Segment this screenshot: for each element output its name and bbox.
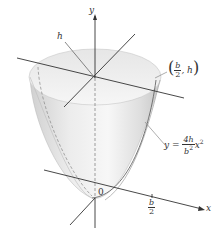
x-axis-arrow (198, 206, 205, 211)
x-axis (44, 170, 202, 209)
equation-label: y = 4hb2x2 (164, 136, 204, 156)
paraboloid-diagram (0, 0, 224, 230)
equation-leader (145, 122, 165, 145)
origin-label: 0 (98, 188, 104, 197)
y-axis-label: y (89, 6, 94, 15)
z-axis (70, 198, 95, 225)
x-axis-label: x (206, 204, 211, 213)
point-label: (b2, h) (168, 60, 199, 79)
height-label: h (57, 32, 63, 41)
tick-label-b-over-2: b2 (148, 199, 155, 216)
